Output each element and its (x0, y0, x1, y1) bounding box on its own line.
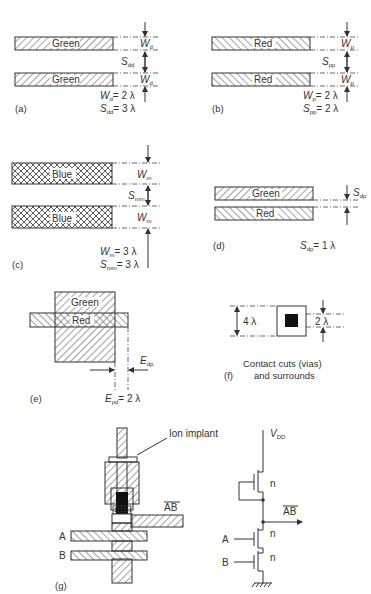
svg-text:Green: Green (252, 188, 280, 199)
contact-cut (285, 314, 298, 327)
input-a-label: A (59, 531, 66, 542)
panel-d-caption: (d) (213, 240, 225, 251)
green-label-top: Green (52, 38, 80, 49)
blue-label-bottom: Blue (52, 213, 72, 224)
panel-e-caption: (e) (30, 393, 42, 404)
svg-text:and surrounds: and surrounds (254, 370, 315, 381)
svg-text:Green: Green (71, 297, 99, 308)
blue-label-top: Blue (52, 169, 72, 180)
poly-a (71, 531, 147, 541)
red-label-bottom: Red (254, 74, 272, 85)
svg-text:Wd= 2 λ: Wd= 2 λ (100, 90, 135, 102)
svg-text:Wm= 3 λ: Wm= 3 λ (100, 246, 136, 258)
svg-text:A: A (222, 534, 229, 545)
svg-text:Epd= 2 λ: Epd= 2 λ (105, 393, 140, 405)
panel-g-nand-schematic: VDD n AB A n B n (222, 428, 302, 587)
svg-text:Edp: Edp (140, 355, 154, 367)
svg-text:n: n (270, 478, 276, 489)
svg-text:2 λ: 2 λ (315, 316, 328, 327)
svg-text:Sdd: Sdd (121, 56, 134, 68)
svg-text:VDD: VDD (270, 428, 286, 440)
svg-text:Wp= 2 λ: Wp= 2 λ (303, 90, 338, 102)
svg-text:Contact cuts (vias): Contact cuts (vias) (243, 358, 322, 369)
svg-text:4 λ: 4 λ (243, 316, 256, 327)
design-rules-figure: Green Green Wd Sdd Wd Wd= 2 λ Sdd= 3 λ (… (0, 0, 371, 594)
svg-text:Wm: Wm (137, 212, 151, 224)
svg-text:Wd: Wd (140, 74, 153, 86)
svg-text:B: B (222, 557, 229, 568)
svg-text:Wm: Wm (137, 169, 151, 181)
svg-text:Wp: Wp (341, 74, 354, 86)
svg-text:AB: AB (283, 506, 297, 517)
svg-text:n: n (270, 552, 276, 563)
svg-text:Smm: Smm (128, 190, 145, 202)
svg-text:Wp: Wp (341, 38, 354, 50)
svg-text:n: n (270, 528, 276, 539)
panel-b-poly-rules: Red Red Wp Spp Wp Wp= 2 λ Spp= 2 λ (b) (212, 22, 358, 115)
panel-f-contact-cuts: 4 λ 2 λ Contact cuts (vias) and surround… (224, 300, 345, 381)
panel-a-caption: (a) (15, 103, 27, 114)
svg-text:Sdd= 3 λ: Sdd= 3 λ (100, 103, 135, 115)
svg-text:Sdp= 1 λ: Sdp= 1 λ (300, 240, 335, 252)
panel-d-diff-poly-spacing: Green Red Sdp Sdp= 1 λ (d) (213, 185, 367, 252)
panel-g-caption: (g) (55, 580, 67, 591)
panel-a-diffusion-rules: Green Green Wd Sdd Wd Wd= 2 λ Sdd= 3 λ (… (15, 22, 158, 115)
panel-e-poly-extension: Green Red Edp Epd= 2 λ (e) (30, 292, 154, 405)
svg-text:Smm= 3 λ: Smm= 3 λ (100, 259, 139, 271)
svg-text:Sdp: Sdp (353, 187, 367, 199)
poly-b (71, 551, 147, 560)
input-b-label: B (59, 550, 66, 561)
output-diffusion (131, 515, 183, 527)
panel-f-caption: (f) (224, 370, 233, 381)
svg-text:Wd: Wd (140, 38, 153, 50)
svg-text:Spp: Spp (322, 56, 336, 68)
svg-text:Red: Red (256, 208, 274, 219)
ion-implant-label: Ion implant (169, 428, 218, 439)
panel-c-caption: (c) (12, 259, 23, 270)
panel-b-caption: (b) (212, 103, 224, 114)
green-label-bottom: Green (52, 74, 80, 85)
red-label-top: Red (254, 38, 272, 49)
output-label: AB (164, 502, 178, 513)
svg-text:Red: Red (72, 315, 90, 326)
panel-c-metal-rules: Blue Blue Wm Smm Wm Wm= 3 λ Smm= 3 λ (c) (12, 145, 160, 271)
svg-text:Spp= 2 λ: Spp= 2 λ (303, 103, 338, 115)
panel-g-nand-layout: A B AB Ion implant (g) (55, 428, 218, 591)
